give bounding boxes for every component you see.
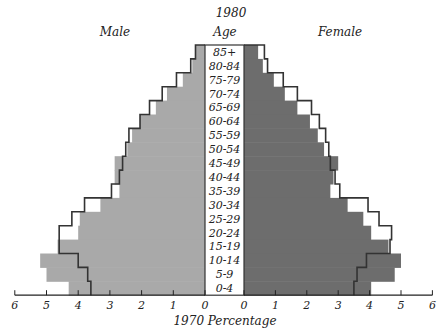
male-1980-bar xyxy=(58,240,205,254)
tick-label: 4 xyxy=(74,299,82,312)
tick-label: 6 xyxy=(11,299,18,312)
male-1980-bar xyxy=(47,267,206,281)
female-1980-bar xyxy=(244,170,333,184)
male-1980-bar xyxy=(78,226,205,240)
male-1980-bar xyxy=(132,128,205,142)
female-1980-bar xyxy=(244,115,310,129)
tick-label: 0 xyxy=(241,299,248,312)
age-label: 0-4 xyxy=(216,282,234,295)
age-label: 10-14 xyxy=(209,254,241,267)
female-1980-bar xyxy=(244,198,348,212)
female-1980-bar xyxy=(244,142,324,156)
age-label: 25-29 xyxy=(208,213,241,226)
male-1980-bar xyxy=(183,73,205,87)
female-1980-bar xyxy=(244,254,401,268)
age-label: 15-19 xyxy=(209,240,241,253)
male-1980-bar xyxy=(100,198,205,212)
female-1980-bar xyxy=(244,156,338,170)
female-1980-bar xyxy=(244,101,297,115)
female-1980-bar xyxy=(244,240,388,254)
male-1980-bar xyxy=(119,184,205,198)
tick-label: 3 xyxy=(106,299,113,312)
male-1980-bar xyxy=(80,212,205,226)
tick-label: 6 xyxy=(429,299,436,312)
female-1980-bar xyxy=(244,59,263,73)
age-label: 75-79 xyxy=(209,74,241,87)
tick-label: 1 xyxy=(272,299,279,312)
male-1980-bar xyxy=(167,87,205,101)
female-1980-bar xyxy=(244,73,274,87)
tick-label: 0 xyxy=(202,299,209,312)
tick-label: 1 xyxy=(170,299,177,312)
female-1980-bar xyxy=(244,267,395,281)
male-1980-bar xyxy=(127,142,205,156)
age-label: 20-24 xyxy=(208,227,241,240)
female-1980-bar xyxy=(244,45,258,59)
x-axis-label: 1970 Percentage xyxy=(173,314,276,328)
tick-label: 3 xyxy=(335,299,342,312)
tick-label: 5 xyxy=(43,299,50,312)
age-label: 65-69 xyxy=(209,101,241,114)
age-label: 85+ xyxy=(213,46,236,59)
age-labels-group: 85+80-8475-7970-7465-6960-6455-5950-5445… xyxy=(208,46,241,295)
age-label: 40-44 xyxy=(208,171,241,184)
population-pyramid-chart: 85+80-8475-7970-7465-6960-6455-5950-5445… xyxy=(0,0,444,336)
age-label: 70-74 xyxy=(209,88,241,101)
female-1980-bar xyxy=(244,281,371,295)
male-1980-bar xyxy=(115,156,205,170)
age-label: 60-64 xyxy=(209,115,241,128)
male-1980-bar xyxy=(40,254,205,268)
age-label: 45-49 xyxy=(208,157,241,170)
age-label: 30-34 xyxy=(209,199,241,212)
tick-label: 4 xyxy=(365,299,373,312)
female-1980-bar xyxy=(244,212,363,226)
age-label: 5-9 xyxy=(216,268,234,281)
tick-label: 5 xyxy=(398,299,405,312)
age-label: 80-84 xyxy=(209,60,241,73)
male-1980-bar xyxy=(69,281,205,295)
tick-label: 2 xyxy=(137,299,145,312)
male-1980-bar xyxy=(195,45,205,59)
female-1980-bar xyxy=(244,184,330,198)
tick-label: 2 xyxy=(302,299,310,312)
male-1980-bar xyxy=(156,101,205,115)
age-label: 35-39 xyxy=(209,185,241,198)
male-1980-bar xyxy=(192,59,205,73)
age-label: 50-54 xyxy=(209,143,241,156)
female-1980-bar xyxy=(244,87,285,101)
male-1980-bar xyxy=(140,115,205,129)
female-1980-bar xyxy=(244,128,318,142)
age-label: 55-59 xyxy=(209,129,241,142)
female-1980-bar xyxy=(244,226,371,240)
male-1980-bar xyxy=(115,170,205,184)
